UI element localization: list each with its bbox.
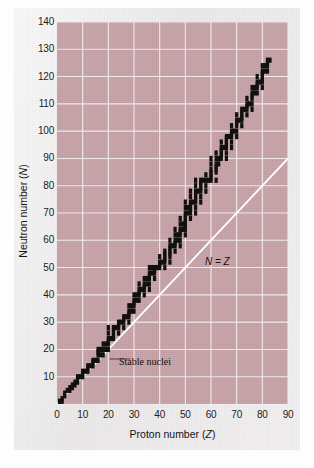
y-axis-title: Neutron number (N) [17,141,29,281]
plot-canvas [57,22,288,404]
y-axis-tick-10: 10 [14,372,54,382]
x-axis-title: Proton number (Z) [57,428,288,440]
y-axis-tick-130: 130 [14,44,54,54]
y-axis-title-text: Neutron number ( [17,175,29,257]
gridlines [57,22,288,404]
stable-nuclei-band [58,58,272,404]
y-axis-tick-140: 140 [14,17,54,27]
y-axis-tick-100: 100 [14,126,54,136]
n-equals-z-label: N = Z [205,256,230,267]
x-axis-tick-90: 90 [273,410,303,420]
y-axis-title-tail: ) [17,164,29,168]
y-axis-tick-30: 30 [14,317,54,327]
figure-page: N = Z Stable nuclei 10203040506070809010… [0,0,314,468]
x-axis-tick-labels: 0102030405060708090 [0,410,314,424]
stable-nuclei-label: Stable nuclei [119,356,171,367]
y-axis-title-symbol: N [17,168,29,176]
y-axis-tick-40: 40 [14,290,54,300]
x-axis-title-tail: ) [212,428,216,440]
y-axis-tick-120: 120 [14,72,54,82]
y-axis-tick-110: 110 [14,99,54,109]
x-axis-title-text: Proton number ( [130,428,206,440]
plot-area: N = Z Stable nuclei [57,22,288,404]
y-axis-tick-20: 20 [14,344,54,354]
